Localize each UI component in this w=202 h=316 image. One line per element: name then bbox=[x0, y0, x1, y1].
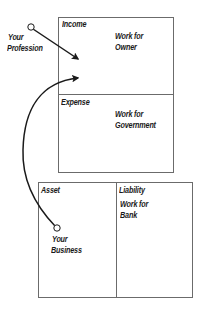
flow-arrows bbox=[0, 0, 202, 316]
business-source-circle bbox=[54, 225, 60, 231]
profession-to-income-arrow bbox=[33, 29, 78, 59]
business-to-income-arrow bbox=[23, 78, 78, 226]
profession-source-circle bbox=[28, 24, 34, 30]
